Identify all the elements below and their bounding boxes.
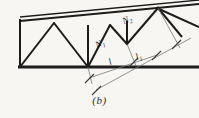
diagonal-6 (158, 8, 182, 37)
member-label-n1: N1 (93, 37, 107, 51)
dimension-label-l: l (107, 56, 114, 66)
diagonal-4 (110, 25, 127, 44)
top-chord-inner (20, 4, 199, 21)
figure-caption: (b) (0, 94, 199, 106)
svg-text:l: l (107, 56, 114, 66)
dimension-lines (88, 8, 191, 90)
tick-mark-1 (85, 74, 94, 83)
svg-text:N1: N1 (93, 37, 107, 51)
diagonal-1 (20, 23, 54, 67)
diagonal-2 (54, 23, 88, 67)
diagonal-5 (127, 8, 158, 44)
node-apex-mid (109, 24, 111, 26)
top-chord-group (20, 0, 199, 21)
label-l-base: l (107, 56, 114, 66)
node-apex-left (53, 22, 55, 24)
witness-line-a (88, 67, 92, 84)
